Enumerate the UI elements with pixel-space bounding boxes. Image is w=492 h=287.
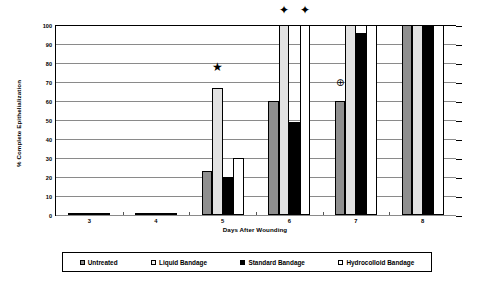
bar (279, 25, 290, 215)
x-tick-label: 3 (88, 218, 91, 224)
bar (202, 171, 213, 215)
legend-item: Hydrocolloid Bandage (338, 259, 414, 266)
bar (433, 25, 444, 215)
y-tick-label: 80 (46, 61, 52, 67)
y-axis-tick (456, 26, 462, 27)
bar-group: 7 (323, 25, 390, 215)
legend-swatch-hydrocolloid (338, 260, 343, 265)
bar (335, 101, 346, 215)
x-tick-label: 7 (354, 218, 357, 224)
bar-group: 5 (189, 25, 256, 215)
filled-five-point-star-icon: ★ (212, 61, 223, 73)
x-axis-title: Days After Wounding (55, 226, 455, 233)
y-axis-tick (456, 216, 462, 217)
legend-item: Liquid Bandage (151, 259, 207, 266)
chart-legend: UntreatedLiquid BandageStandard BandageH… (62, 252, 432, 272)
bar-zero-baseline (135, 213, 177, 215)
legend-item: Untreated (80, 259, 118, 266)
legend-item: Standard Bandage (240, 259, 304, 266)
four-point-star-icon: ✦ (279, 4, 289, 16)
x-tick-label: 6 (288, 218, 291, 224)
bar (212, 88, 223, 215)
legend-label: Untreated (88, 259, 118, 266)
y-axis-title: % Complete Epithelialization (15, 44, 22, 204)
x-tick-label: 5 (221, 218, 224, 224)
y-axis-tick (456, 121, 462, 122)
bar-group: 4 (123, 25, 190, 215)
bar-group: 8 (389, 25, 456, 215)
bar (423, 25, 434, 215)
bar-group: 3 (56, 25, 123, 215)
y-axis-tick (456, 64, 462, 65)
y-tick-label: 70 (46, 80, 52, 86)
y-tick-label: 20 (46, 175, 52, 181)
y-axis-tick (456, 83, 462, 84)
y-tick-label: 50 (46, 118, 52, 124)
x-tick-label: 4 (154, 218, 157, 224)
y-axis-tick (456, 197, 462, 198)
gridline: 0 (56, 215, 456, 216)
y-tick-label: 60 (46, 99, 52, 105)
y-tick-label: 10 (46, 194, 52, 200)
legend-label: Liquid Bandage (159, 259, 207, 266)
legend-label: Standard Bandage (248, 259, 304, 266)
legend-swatch-standard (240, 260, 245, 265)
bar-chart: % Complete Epithelialization 01020304050… (0, 0, 492, 287)
bar (233, 158, 244, 215)
bar (268, 101, 279, 215)
bar (366, 25, 377, 215)
legend-swatch-liquid (151, 260, 156, 265)
y-axis-tick (456, 140, 462, 141)
y-tick-label: 100 (43, 23, 52, 29)
y-tick-label: 40 (46, 137, 52, 143)
bar (345, 25, 356, 215)
circled-plus-icon: ⊕ (336, 78, 344, 88)
four-point-star-icon: ✦ (300, 4, 310, 16)
y-axis-tick (456, 45, 462, 46)
bar (412, 25, 423, 215)
bar (356, 33, 367, 215)
bar-group: 6 (256, 25, 323, 215)
plot-area: 0102030405060708090100345678★✦✦⊕ (55, 25, 456, 216)
y-tick-label: 0 (49, 213, 52, 219)
y-axis-tick (456, 159, 462, 160)
y-tick-label: 30 (46, 156, 52, 162)
legend-label: Hydrocolloid Bandage (346, 259, 414, 266)
y-tick-label: 90 (46, 42, 52, 48)
bar (300, 25, 311, 215)
bar-zero-baseline (68, 213, 110, 215)
bar (402, 25, 413, 215)
bar (289, 122, 300, 215)
y-axis-tick (456, 102, 462, 103)
bar (223, 177, 234, 215)
x-tick-label: 8 (421, 218, 424, 224)
legend-swatch-untreated (80, 260, 85, 265)
y-axis-tick (456, 178, 462, 179)
